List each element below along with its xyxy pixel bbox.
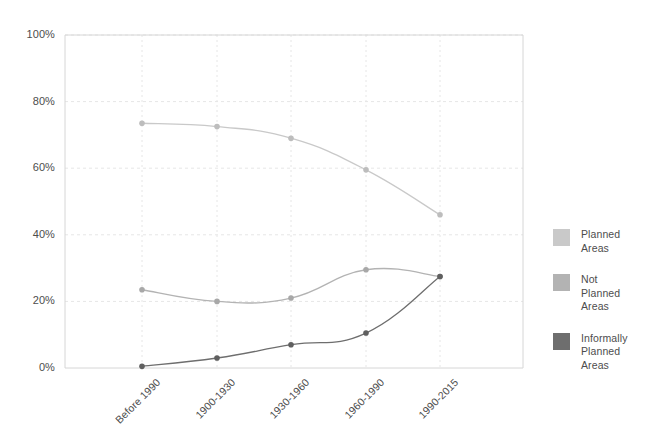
data-point-marker[interactable] [363,330,369,336]
line-chart: 0%20%40%60%80%100% Before 19901900-19301… [0,0,667,434]
legend-item-label: Planned Areas [581,228,620,255]
y-axis-tick-label: 0% [3,361,55,373]
legend-item[interactable]: Not Planned Areas [553,273,665,314]
y-axis-tick-label: 100% [3,28,55,40]
data-point-marker[interactable] [139,287,145,293]
y-axis-tick-label: 40% [3,228,55,240]
legend-item-label: Informally Planned Areas [581,332,628,373]
legend-item[interactable]: Planned Areas [553,228,665,255]
y-axis-tick-label: 80% [3,95,55,107]
axis-lines [65,35,523,368]
legend-item[interactable]: Informally Planned Areas [553,332,665,373]
data-point-marker[interactable] [139,120,145,126]
data-point-marker[interactable] [363,267,369,273]
data-point-marker[interactable] [139,364,145,370]
chart-legend: Planned AreasNot Planned AreasInformally… [553,228,665,390]
data-point-marker[interactable] [214,124,220,130]
data-point-marker[interactable] [437,212,443,218]
y-axis-tick-label: 60% [3,161,55,173]
data-point-marker[interactable] [288,295,294,301]
data-point-marker[interactable] [214,355,220,361]
legend-swatch-icon [553,229,570,246]
data-point-marker[interactable] [437,274,443,280]
legend-swatch-icon [553,333,570,350]
legend-swatch-icon [553,274,570,291]
data-point-marker[interactable] [363,167,369,173]
data-point-marker[interactable] [288,135,294,141]
legend-item-label: Not Planned Areas [581,273,620,314]
data-point-marker[interactable] [288,342,294,348]
gridlines [65,35,523,368]
data-point-marker[interactable] [214,299,220,305]
y-axis-tick-label: 20% [3,294,55,306]
